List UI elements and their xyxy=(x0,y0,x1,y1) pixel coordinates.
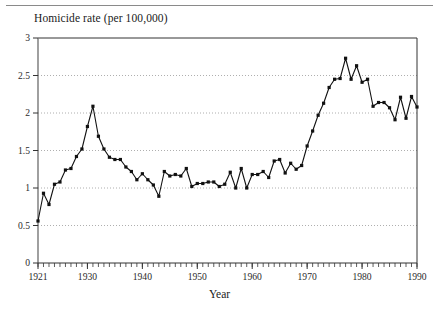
x-tick-label: 1980 xyxy=(352,271,371,282)
x-axis-label: Year xyxy=(0,288,439,300)
y-tick-label: 1 xyxy=(25,182,30,193)
data-point-marker xyxy=(278,158,281,161)
data-point-marker xyxy=(179,174,182,177)
data-point-marker xyxy=(212,180,215,183)
data-point-marker xyxy=(366,78,369,81)
data-point-marker xyxy=(415,105,418,108)
data-point-marker xyxy=(360,81,363,84)
data-point-marker xyxy=(344,57,347,60)
data-point-marker xyxy=(349,78,352,81)
data-point-marker xyxy=(102,147,105,150)
data-point-marker xyxy=(333,78,336,81)
data-point-marker xyxy=(80,147,83,150)
data-point-marker xyxy=(163,170,166,173)
data-point-marker xyxy=(190,185,193,188)
data-point-marker xyxy=(262,170,265,173)
data-point-marker xyxy=(141,172,144,175)
data-point-marker xyxy=(382,101,385,104)
y-tick-label: 0 xyxy=(25,257,30,268)
data-point-marker xyxy=(135,178,138,181)
data-point-marker xyxy=(256,173,259,176)
data-point-marker xyxy=(146,178,149,181)
data-point-marker xyxy=(42,192,45,195)
y-tick-label: 3 xyxy=(25,32,30,43)
data-point-marker xyxy=(201,182,204,185)
data-point-marker xyxy=(306,144,309,147)
data-point-marker xyxy=(64,168,67,171)
data-point-marker xyxy=(300,164,303,167)
data-point-marker xyxy=(196,182,199,185)
data-point-marker xyxy=(218,185,221,188)
y-tick-label: 2 xyxy=(25,107,30,118)
data-point-marker xyxy=(69,167,72,170)
data-point-marker xyxy=(322,102,325,105)
data-point-marker xyxy=(410,95,413,98)
data-point-marker xyxy=(295,168,298,171)
data-point-marker xyxy=(339,77,342,80)
data-point-marker xyxy=(86,125,89,128)
data-point-marker xyxy=(284,171,287,174)
data-point-marker xyxy=(53,183,56,186)
data-point-marker xyxy=(289,162,292,165)
x-tick-label: 1940 xyxy=(133,271,152,282)
data-point-marker xyxy=(240,167,243,170)
data-point-marker xyxy=(371,105,374,108)
data-point-marker xyxy=(152,183,155,186)
y-tick-label: 0.5 xyxy=(18,220,30,231)
y-tick-label: 2.5 xyxy=(18,70,30,81)
x-tick-label: 1990 xyxy=(407,271,426,282)
data-point-marker xyxy=(58,180,61,183)
data-point-marker xyxy=(47,203,50,206)
data-point-marker xyxy=(185,167,188,170)
data-point-marker xyxy=(355,64,358,67)
data-point-marker xyxy=(388,106,391,109)
data-point-marker xyxy=(130,170,133,173)
data-point-marker xyxy=(97,135,100,138)
x-tick-label: 1950 xyxy=(188,271,207,282)
x-tick-label: 1970 xyxy=(298,271,317,282)
data-point-marker xyxy=(317,114,320,117)
data-point-marker xyxy=(36,219,39,222)
data-point-marker xyxy=(399,96,402,99)
data-point-marker xyxy=(207,180,210,183)
data-point-marker xyxy=(251,173,254,176)
data-point-marker xyxy=(245,186,248,189)
data-point-marker xyxy=(75,155,78,158)
data-point-marker xyxy=(311,129,314,132)
x-tick-label: 1960 xyxy=(243,271,262,282)
data-point-marker xyxy=(393,118,396,121)
data-point-marker xyxy=(108,156,111,159)
line-chart-plot: 00.511.522.53192119301940195019601970198… xyxy=(0,0,439,309)
x-tick-label: 1921 xyxy=(28,271,47,282)
data-point-marker xyxy=(229,171,232,174)
data-line-homicide-rate xyxy=(38,58,417,221)
data-point-marker xyxy=(377,101,380,104)
data-point-marker xyxy=(168,174,171,177)
data-point-marker xyxy=(174,173,177,176)
data-point-marker xyxy=(113,158,116,161)
data-point-marker xyxy=(119,158,122,161)
y-tick-label: 1.5 xyxy=(18,145,30,156)
data-point-marker xyxy=(328,86,331,89)
data-point-marker xyxy=(234,186,237,189)
data-point-marker xyxy=(273,159,276,162)
figure-container: Homicide rate (per 100,000) 00.511.522.5… xyxy=(0,0,439,309)
data-point-marker xyxy=(404,117,407,120)
x-tick-label: 1930 xyxy=(78,271,97,282)
data-point-marker xyxy=(157,195,160,198)
data-point-marker xyxy=(91,105,94,108)
data-point-marker xyxy=(124,165,127,168)
data-point-marker xyxy=(223,183,226,186)
data-point-marker xyxy=(267,176,270,179)
